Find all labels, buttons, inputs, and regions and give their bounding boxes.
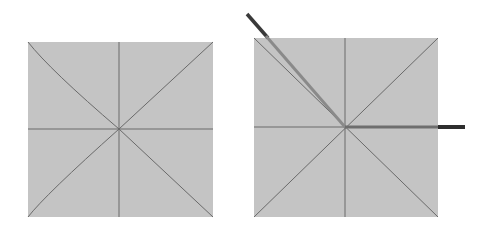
left-panel <box>28 42 213 217</box>
right-panel <box>247 14 465 217</box>
diagram-canvas <box>0 0 488 230</box>
diagonal-vector-outer <box>247 14 268 38</box>
